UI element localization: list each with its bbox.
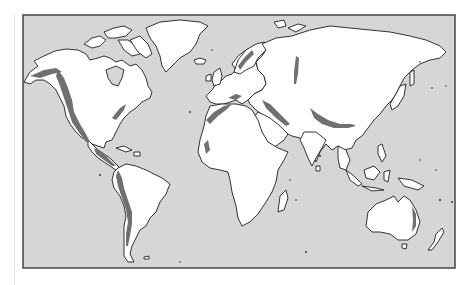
- island: [435, 169, 437, 171]
- tasmania: [402, 244, 407, 249]
- island: [179, 261, 181, 263]
- island: [295, 199, 297, 201]
- island: [189, 111, 191, 113]
- island: [289, 179, 291, 181]
- island: [211, 49, 213, 51]
- island: [305, 251, 307, 253]
- world-map: [0, 0, 475, 285]
- island: [419, 159, 421, 161]
- island: [319, 155, 321, 157]
- island: [419, 61, 421, 63]
- falkland-islands: [144, 256, 149, 259]
- island: [99, 174, 101, 176]
- sakhalin: [410, 70, 414, 86]
- island: [439, 199, 441, 201]
- hispaniola: [134, 152, 140, 156]
- sri-lanka: [316, 166, 320, 171]
- island: [445, 85, 447, 87]
- island: [431, 87, 433, 89]
- island: [451, 201, 453, 203]
